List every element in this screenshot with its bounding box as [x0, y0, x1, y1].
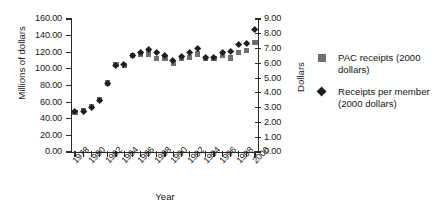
y-axis-left-tick — [66, 151, 72, 152]
legend-item-label: PAC receipts (2000 dollars) — [338, 52, 444, 75]
x-axis-title: Year — [120, 192, 210, 202]
y-axis-right-tick — [255, 78, 261, 79]
data-point-square — [154, 56, 159, 61]
legend-item-receipts-per-member: Receipts per member (2000 dollars) — [318, 86, 444, 110]
y-axis-left-tick — [66, 102, 72, 103]
y-axis-right-tick-label: 8.00 — [264, 29, 298, 38]
y-axis-right-tick — [255, 18, 261, 19]
y-axis-right-tick — [255, 63, 261, 64]
data-point-diamond — [210, 54, 218, 62]
data-point-square — [236, 50, 241, 55]
data-point-square — [228, 55, 233, 60]
data-point-diamond — [128, 52, 136, 60]
x-axis-tick-label: 1996 — [218, 145, 238, 165]
y-axis-left-tick-label: 20.00 — [16, 131, 62, 140]
y-axis-right-tick-label: 5.00 — [264, 74, 298, 83]
y-axis-right-title: Dollars — [296, 48, 306, 106]
y-axis-right-tick — [255, 92, 261, 93]
y-axis-left-tick — [66, 85, 72, 86]
y-axis-left-tick — [66, 52, 72, 53]
data-point-diamond — [227, 48, 235, 56]
y-axis-left-tick — [66, 118, 72, 119]
data-point-diamond — [71, 108, 79, 116]
data-point-diamond — [112, 62, 120, 70]
data-point-square — [252, 40, 257, 45]
y-axis-right-tick-label: 6.00 — [264, 59, 298, 68]
y-axis-right-tick-label: 2.00 — [264, 118, 298, 127]
y-axis-right-line — [258, 19, 259, 153]
y-axis-right-tick-label: 3.00 — [264, 103, 298, 112]
y-axis-right-tick — [255, 137, 261, 138]
x-axis-tick-label: 1990 — [169, 145, 189, 165]
y-axis-right-tick — [255, 48, 261, 49]
y-axis-right-tick — [255, 107, 261, 108]
legend-item-pac-receipts: PAC receipts (2000 dollars) — [318, 52, 444, 76]
y-axis-left-tick — [66, 68, 72, 69]
y-axis-right-tick — [255, 33, 261, 34]
legend-item-label: Receipts per member (2000 dollars) — [338, 86, 444, 109]
y-axis-left-tick — [66, 35, 72, 36]
data-point-diamond — [243, 40, 251, 48]
y-axis-right-tick-label: 4.00 — [264, 88, 298, 97]
data-point-diamond — [104, 80, 112, 88]
data-point-square — [244, 48, 249, 53]
y-axis-left-tick — [66, 18, 72, 19]
y-axis-left-title: Millions of dollars — [17, 8, 27, 118]
y-axis-right-tick-label: 1.00 — [264, 133, 298, 142]
y-axis-left-tick — [66, 135, 72, 136]
y-axis-left-tick-label: 0.00 — [16, 147, 62, 156]
data-point-diamond — [153, 48, 161, 56]
square-marker-icon — [318, 54, 326, 62]
y-axis-right-tick-label: 9.00 — [264, 14, 298, 23]
data-point-diamond — [96, 97, 104, 105]
chart-figure: 160.00140.00120.00100.0080.0060.0040.002… — [0, 0, 446, 213]
diamond-marker-icon — [317, 87, 327, 97]
y-axis-right-tick — [255, 122, 261, 123]
data-point-diamond — [235, 41, 243, 49]
chart-legend: PAC receipts (2000 dollars) Receipts per… — [318, 52, 444, 120]
data-point-diamond — [161, 51, 169, 59]
data-point-diamond — [88, 104, 96, 112]
y-axis-right-tick-label: 7.00 — [264, 44, 298, 53]
